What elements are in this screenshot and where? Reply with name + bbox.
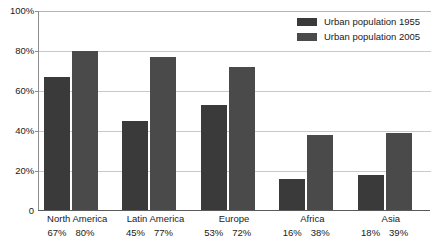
- data-value-label: 53%: [201, 227, 227, 239]
- data-value-label: 67%: [44, 227, 70, 239]
- x-label-group: North America67%80%: [38, 213, 116, 249]
- bar: [229, 67, 255, 211]
- bar: [150, 57, 176, 211]
- legend-swatch: [297, 18, 317, 26]
- x-label-group: Europe53%72%: [195, 213, 273, 249]
- y-axis-tick-labels: 020%40%60%80%100%: [0, 0, 34, 249]
- bar: [122, 121, 148, 211]
- data-value-label: 45%: [122, 227, 148, 239]
- data-value-label: 72%: [229, 227, 255, 239]
- data-value-label: 16%: [279, 227, 305, 239]
- category-label: North America: [38, 213, 116, 225]
- y-tick-label: 100%: [0, 6, 34, 16]
- x-axis-labels: North America67%80%Latin America45%77%Eu…: [38, 213, 430, 249]
- bar: [307, 135, 333, 211]
- bar: [44, 77, 70, 211]
- y-tick-label: 20%: [0, 166, 34, 176]
- x-axis-line: [38, 210, 430, 211]
- legend-item: Urban population 1955: [297, 16, 425, 28]
- y-tick-label: 40%: [0, 126, 34, 136]
- data-value-label: 80%: [72, 227, 98, 239]
- y-tick-label: 60%: [0, 86, 34, 96]
- legend-label: Urban population 2005: [324, 32, 420, 42]
- bar: [201, 105, 227, 211]
- bar-group: [38, 11, 116, 211]
- legend-label: Urban population 1955: [324, 17, 420, 27]
- data-value-label: 39%: [386, 227, 412, 239]
- y-tick-label: 80%: [0, 46, 34, 56]
- category-label: Africa: [273, 213, 351, 225]
- legend-item: Urban population 2005: [297, 31, 425, 43]
- bar-group: [195, 11, 273, 211]
- legend-swatch: [297, 33, 317, 41]
- chart-legend: Urban population 1955Urban population 20…: [297, 16, 425, 46]
- x-label-group: Latin America45%77%: [116, 213, 194, 249]
- category-label: Latin America: [116, 213, 194, 225]
- category-label: Europe: [195, 213, 273, 225]
- data-value-label: 18%: [358, 227, 384, 239]
- y-tick-label: 0: [0, 206, 34, 216]
- bar: [279, 179, 305, 211]
- bar: [386, 133, 412, 211]
- x-label-group: Asia18%39%: [352, 213, 430, 249]
- bar-group: [116, 11, 194, 211]
- category-label: Asia: [352, 213, 430, 225]
- data-value-label: 77%: [150, 227, 176, 239]
- x-label-group: Africa16%38%: [273, 213, 351, 249]
- bar: [72, 51, 98, 211]
- data-value-label: 38%: [307, 227, 333, 239]
- bar: [358, 175, 384, 211]
